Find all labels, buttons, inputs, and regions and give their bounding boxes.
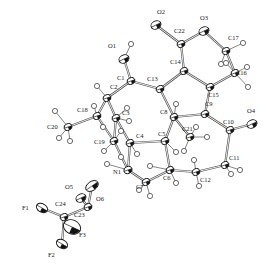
- atom-label: C6: [163, 174, 171, 181]
- atom-label: C10: [223, 118, 234, 125]
- hydrogen-atom: [67, 138, 72, 143]
- atom-label: C14: [170, 58, 182, 65]
- hydrogen-atom: [94, 83, 99, 88]
- atom-f2: [55, 237, 70, 250]
- hydrogen-atom: [118, 154, 123, 159]
- hydrogen-atom: [245, 84, 250, 89]
- atom-label: C17: [228, 34, 240, 41]
- hydrogen-atom: [173, 180, 178, 185]
- atoms-layer: [35, 19, 259, 250]
- atom-label: O6: [96, 195, 105, 202]
- atom-label: C22: [174, 27, 185, 34]
- atom-label: O4: [247, 107, 256, 114]
- hydrogen-atom: [118, 128, 123, 133]
- hydrogen-atom: [104, 161, 109, 166]
- atom-label: C15: [208, 91, 219, 98]
- hydrogen-atom: [173, 149, 178, 154]
- atom-label: O2: [157, 8, 165, 15]
- crystal-structure-figure: O1O2O3O4O5O6N1C1C2C3C4C5C6C7C8C9C10C11C1…: [0, 0, 268, 270]
- atom-label: O5: [65, 183, 73, 190]
- atom-label: O3: [200, 14, 208, 21]
- atom-label: O1: [108, 42, 116, 49]
- atom-label: F1: [22, 204, 29, 211]
- atom-label: C8: [160, 108, 168, 115]
- hydrogen-atom: [56, 135, 61, 140]
- atom-o6: [84, 178, 101, 193]
- atom-label: N1: [113, 168, 121, 175]
- atom-label: C20: [47, 123, 58, 130]
- atom-c4: [125, 139, 135, 148]
- hydrogen-atom: [134, 151, 139, 156]
- atom-label: C11: [229, 154, 240, 161]
- hydrogen-atom: [147, 193, 152, 198]
- atom-label: C16: [236, 69, 248, 76]
- atom-label: C12: [200, 176, 211, 183]
- atom-label: C9: [205, 100, 213, 107]
- hydrogen-atoms-layer: [52, 40, 250, 198]
- atom-label: F3: [79, 231, 86, 238]
- hydrogen-atom: [204, 134, 209, 139]
- atom-label: C1: [117, 74, 125, 81]
- atom-label: C21: [182, 125, 193, 132]
- hydrogen-atom: [218, 61, 223, 66]
- hydrogen-atom: [223, 60, 228, 65]
- hydrogen-atom: [100, 124, 105, 129]
- atom-label: C3: [122, 109, 130, 116]
- atom-label: C7: [136, 183, 144, 190]
- hydrogen-atom: [191, 157, 196, 162]
- hydrogen-atom: [52, 108, 57, 113]
- atom-label: C19: [94, 138, 105, 145]
- atom-c20: [63, 123, 73, 132]
- ortep-molecule-diagram: O1O2O3O4O5O6N1C1C2C3C4C5C6C7C8C9C10C11C1…: [0, 0, 268, 270]
- atom-label: C2: [110, 83, 118, 90]
- hydrogen-atom: [196, 183, 201, 188]
- hydrogen-atom: [181, 148, 186, 153]
- atom-label: C18: [77, 106, 88, 113]
- hydrogen-atom: [91, 103, 96, 108]
- atom-label: C5: [158, 130, 166, 137]
- hydrogen-atom: [193, 124, 198, 129]
- atom-label: C4: [136, 132, 144, 139]
- atom-label: C24: [55, 200, 67, 207]
- hydrogen-atom: [240, 40, 245, 45]
- atom-f1: [35, 201, 50, 214]
- hydrogen-atom: [126, 118, 131, 123]
- hydrogen-atom: [228, 171, 233, 176]
- hydrogen-atom: [237, 167, 242, 172]
- atom-c11: [220, 161, 230, 170]
- hydrogen-atom: [101, 148, 106, 153]
- atom-o4: [246, 118, 259, 130]
- atom-o1: [118, 53, 131, 65]
- hydrogen-atom: [173, 101, 178, 106]
- atom-label: F2: [48, 251, 55, 258]
- atom-label: C13: [147, 75, 158, 82]
- atom-label: C23: [74, 211, 85, 218]
- hydrogen-atom: [147, 163, 152, 168]
- hydrogen-atom: [128, 41, 133, 46]
